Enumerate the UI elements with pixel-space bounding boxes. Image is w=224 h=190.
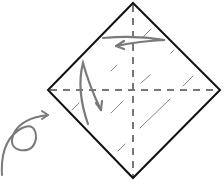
fold-left-arrow — [80, 63, 102, 124]
turn-over-arrow — [2, 111, 48, 175]
crease-lines — [50, 5, 219, 177]
diagram-canvas — [0, 0, 224, 190]
